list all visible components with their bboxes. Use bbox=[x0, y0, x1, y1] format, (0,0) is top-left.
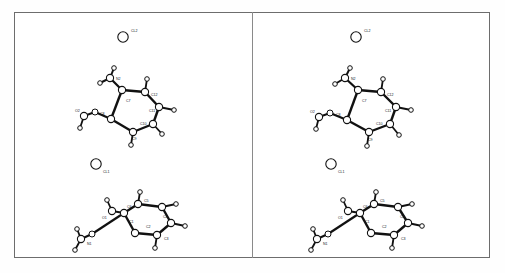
atom-o1 bbox=[344, 207, 351, 214]
chloride-ion-circle bbox=[326, 159, 336, 169]
atom-label-c10: C10 bbox=[376, 122, 383, 126]
atom-c2-o bbox=[153, 246, 158, 251]
atom-c7 bbox=[118, 86, 125, 93]
atom-c9-o bbox=[129, 143, 134, 148]
atom-label-c3: C3 bbox=[164, 237, 169, 241]
atom-label-c11: C11 bbox=[149, 109, 155, 113]
atom-c10 bbox=[386, 120, 393, 127]
ion-label-cl2: CL2 bbox=[131, 29, 138, 33]
atom-label-c9: C9 bbox=[132, 137, 137, 141]
atom-nitro-o-b bbox=[98, 81, 103, 86]
atom-o2-h bbox=[78, 126, 83, 131]
atom-c8-o bbox=[327, 110, 333, 116]
atom-c4 bbox=[158, 203, 165, 210]
atom-nitro-o-b bbox=[333, 82, 338, 87]
atom-c6 bbox=[120, 209, 127, 216]
atom-label-c4: C4 bbox=[163, 215, 168, 219]
atom-c8 bbox=[343, 116, 350, 123]
ion-cl2: CL2 bbox=[351, 29, 371, 42]
molecule-group-lower-right: CL1 bbox=[309, 159, 425, 253]
atom-c5-o bbox=[138, 190, 143, 195]
atom-c5-o bbox=[374, 190, 379, 195]
atom-label-c5: C5 bbox=[144, 199, 149, 203]
atom-c1-n-link bbox=[325, 231, 331, 237]
atom-c9 bbox=[129, 128, 136, 135]
atom-nitro-o-c bbox=[311, 227, 316, 232]
atom-nitro-o-d bbox=[73, 248, 78, 253]
atom-c5 bbox=[370, 200, 377, 207]
atom-c9-o bbox=[365, 144, 370, 149]
atom-o1 bbox=[108, 207, 115, 214]
atom-c2-o bbox=[390, 246, 395, 251]
ion-cl1: CL1 bbox=[326, 159, 345, 174]
atom-n2 bbox=[106, 74, 113, 81]
atom-c8-o bbox=[92, 109, 98, 115]
molecule-group-upper-right: CL2 bbox=[310, 29, 413, 148]
atom-c10 bbox=[149, 120, 156, 127]
atom-label-c2: C2 bbox=[146, 225, 151, 229]
atom-label-c5: C5 bbox=[380, 199, 385, 203]
atom-label-o1: O1 bbox=[338, 216, 343, 220]
atom-c12-o bbox=[145, 77, 150, 82]
atom-label-c8: C8 bbox=[336, 113, 341, 117]
atom-label-c12: C12 bbox=[387, 93, 394, 97]
atom-c1 bbox=[367, 229, 374, 236]
atom-c10-o bbox=[397, 133, 402, 138]
atom-label-n2: N2 bbox=[116, 77, 121, 81]
atom-label-n1: N1 bbox=[87, 242, 92, 246]
atom-label-c8: C8 bbox=[100, 112, 105, 116]
atom-label-n1: N1 bbox=[323, 242, 328, 246]
atoms-upper bbox=[78, 66, 177, 148]
ion-cl1: CL1 bbox=[91, 159, 110, 174]
atom-c5 bbox=[134, 200, 141, 207]
atom-c12-o bbox=[381, 77, 386, 82]
atom-c7 bbox=[354, 86, 361, 93]
atom-o1-h bbox=[105, 198, 110, 203]
atom-label-o2: O2 bbox=[75, 109, 80, 113]
molecule-group-upper-left: CL2 bbox=[75, 29, 176, 147]
atom-c1-n-link bbox=[89, 231, 95, 237]
atom-label-o1: O1 bbox=[102, 216, 107, 220]
atom-label-c11: C11 bbox=[385, 109, 391, 113]
atom-o1-h bbox=[341, 198, 346, 203]
atom-label-c9: C9 bbox=[368, 138, 373, 142]
atom-c2 bbox=[390, 231, 397, 238]
atom-c3 bbox=[167, 219, 174, 226]
atom-label-c7: C7 bbox=[362, 99, 367, 103]
chloride-ion-circle bbox=[91, 159, 101, 169]
atoms-upper bbox=[314, 66, 414, 149]
atom-c12 bbox=[377, 88, 384, 95]
atom-o2 bbox=[315, 113, 322, 120]
atom-o2 bbox=[80, 112, 87, 119]
atom-c3-o bbox=[183, 224, 188, 229]
atom-c3-o bbox=[420, 224, 425, 229]
ion-label-cl1: CL1 bbox=[338, 170, 345, 174]
atom-c12 bbox=[141, 88, 148, 95]
atom-c1 bbox=[131, 229, 138, 236]
atom-c4-o bbox=[410, 202, 415, 207]
atom-nitro-o-c bbox=[75, 227, 80, 232]
atom-c11 bbox=[155, 103, 162, 110]
chloride-ion-circle bbox=[118, 32, 128, 42]
atom-label-c1: C1 bbox=[365, 220, 370, 224]
atom-c11-o bbox=[172, 108, 177, 113]
ion-label-cl1: CL1 bbox=[103, 170, 110, 174]
atom-c4 bbox=[394, 203, 401, 210]
stereo-view-left: CL2 bbox=[14, 12, 252, 258]
atom-label-n2: N2 bbox=[351, 77, 356, 81]
atom-label-c12: C12 bbox=[151, 93, 158, 97]
atom-c6 bbox=[356, 209, 363, 216]
atom-c11 bbox=[392, 103, 399, 110]
atom-c9 bbox=[365, 128, 372, 135]
stereo-view-right: CL2 bbox=[253, 12, 491, 258]
atom-n1 bbox=[313, 235, 320, 242]
atom-label-c3: C3 bbox=[401, 237, 406, 241]
molecule-group-lower-left: CL1 bbox=[73, 159, 188, 253]
atom-label-o2: O2 bbox=[310, 110, 315, 114]
atom-label-c6: C6 bbox=[127, 205, 132, 209]
atom-label-c1: C1 bbox=[129, 220, 134, 224]
atom-o2-h bbox=[314, 127, 319, 132]
atom-label-c6: C6 bbox=[363, 205, 368, 209]
atom-c8 bbox=[107, 115, 114, 122]
atom-nitro-o-a bbox=[348, 66, 353, 71]
